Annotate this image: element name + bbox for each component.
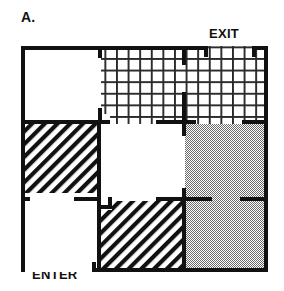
wall-v2-row0-top [182,46,186,65]
wall-h1-col1-right [156,120,185,124]
figure-root: A. EXIT ENTER [0,0,284,291]
room-r2c0 [21,201,101,272]
wall-h1-col2-left [185,120,196,124]
wall-h2-col0-right [74,197,101,201]
wall-v2-row0-bottom [182,92,186,124]
room-r2c2 [185,201,268,272]
room-r1c1 [101,124,185,201]
room-r0c1 [101,46,185,124]
wall-top-left-segment [21,46,208,50]
room-r1c0 [21,124,101,201]
wall-h1-col2-right [242,120,268,124]
wall-v1-row2 [97,201,101,272]
wall-h1-col0 [21,120,101,124]
exit-jamb-left [204,46,208,57]
room-fills [21,46,268,272]
wall-left [21,46,25,272]
wall-h2-col1-step [108,197,112,206]
exit-jamb-right [252,46,256,57]
enter-jamb-right [92,262,96,272]
wall-h1-col1-left [101,120,110,124]
maze-diagram [0,0,284,291]
enter-jamb-left [21,258,25,272]
wall-v1-row0-top [98,46,102,58]
wall-h2-col0-left [21,197,30,201]
wall-h2-col1-right [156,197,185,201]
room-r0c2 [185,46,268,124]
room-r2c1 [101,201,185,272]
wall-v2-row1-bottom [182,188,186,201]
wall-h2-col2-left [185,197,212,201]
room-r0c0 [21,46,101,124]
wall-v2-row1-top [182,124,186,136]
wall-v1-row1 [97,124,101,201]
wall-right [264,46,268,272]
wall-h2-col2-right [240,197,268,201]
notch-r1c1-left [101,124,110,133]
wall-v1-row0-bottom [98,108,102,124]
room-r1c2 [185,124,268,201]
wall-v2-row2 [182,201,186,272]
